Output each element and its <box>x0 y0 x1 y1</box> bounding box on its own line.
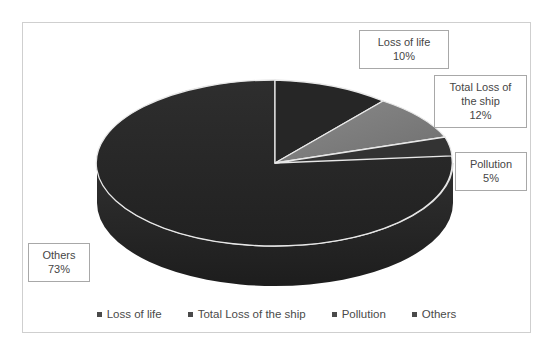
callout-pollution: Pollution 5% <box>455 152 527 191</box>
legend-swatch-icon <box>412 312 417 317</box>
callout-total-loss-label-line2: the ship <box>441 94 520 108</box>
callout-total-loss-of-the-ship: Total Loss of the ship 12% <box>434 75 527 128</box>
pie-top-face <box>96 80 452 246</box>
legend-item-label: Pollution <box>342 308 386 320</box>
legend-swatch-icon <box>188 312 193 317</box>
callout-loss-of-life-label: Loss of life <box>366 35 442 49</box>
callout-total-loss-label-line1: Total Loss of <box>441 80 520 94</box>
chart-legend: Loss of life Total Loss of the ship Poll… <box>22 303 531 325</box>
legend-item-loss-of-life[interactable]: Loss of life <box>97 308 162 320</box>
legend-item-pollution[interactable]: Pollution <box>332 308 386 320</box>
legend-item-label: Total Loss of the ship <box>198 308 306 320</box>
legend-item-total-loss-of-the-ship[interactable]: Total Loss of the ship <box>188 308 306 320</box>
callout-others-value: 73% <box>35 262 83 276</box>
callout-pollution-label: Pollution <box>462 157 520 171</box>
legend-item-others[interactable]: Others <box>412 308 457 320</box>
callout-loss-of-life-value: 10% <box>366 49 442 63</box>
pie-slice-others <box>96 80 452 246</box>
callout-pollution-value: 5% <box>462 171 520 185</box>
callout-others: Others 73% <box>28 243 90 282</box>
legend-swatch-icon <box>332 312 337 317</box>
callout-loss-of-life: Loss of life 10% <box>359 30 449 69</box>
legend-item-label: Loss of life <box>107 308 162 320</box>
legend-item-label: Others <box>422 308 457 320</box>
legend-swatch-icon <box>97 312 102 317</box>
callout-total-loss-value: 12% <box>441 108 520 122</box>
callout-others-label: Others <box>35 248 83 262</box>
